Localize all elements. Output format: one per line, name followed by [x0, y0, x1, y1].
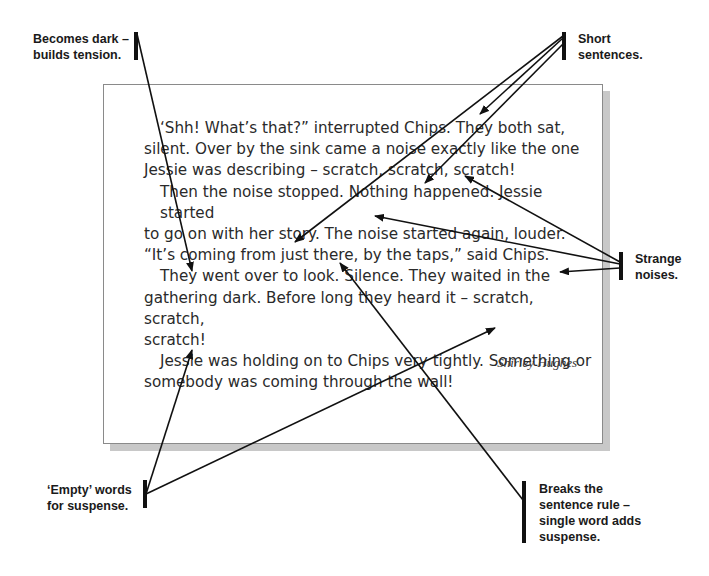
annotation-line: for suspense. — [47, 498, 132, 514]
annotation-becomes-dark: Becomes dark – builds tension. — [33, 31, 129, 63]
annotation-bar-strange-noises — [619, 252, 623, 280]
annotation-empty-words: ‘Empty’ words for suspense. — [47, 482, 132, 514]
annotation-line: suspense. — [539, 529, 641, 545]
passage-text: ‘Shh! What’s that?” interrupted Chips. T… — [144, 118, 599, 394]
annotation-line: Becomes dark – — [33, 31, 129, 47]
annotation-bar-breaks-rule — [522, 481, 526, 543]
passage-line: silent. Over by the sink came a noise ex… — [144, 139, 599, 160]
passage-line: ‘Shh! What’s that?” interrupted Chips. T… — [144, 118, 599, 139]
passage-line: gathering dark. Before long they heard i… — [144, 288, 599, 330]
annotation-strange-noises: Strange noises. — [635, 251, 682, 283]
annotation-line: ‘Empty’ words — [47, 482, 132, 498]
passage-line: They went over to look. Silence. They wa… — [144, 266, 599, 287]
annotation-bar-becomes-dark — [134, 32, 138, 60]
passage-box: ‘Shh! What’s that?” interrupted Chips. T… — [103, 84, 603, 444]
annotation-line: noises. — [635, 267, 682, 283]
annotation-line: Strange — [635, 251, 682, 267]
annotation-line: builds tension. — [33, 47, 129, 63]
passage-line: Jessie was describing – scratch, scratch… — [144, 160, 599, 181]
annotation-bar-empty-words — [143, 480, 147, 508]
passage-line: Then the noise stopped. Nothing happened… — [144, 182, 599, 224]
passage-line: to go on with her story. The noise start… — [144, 224, 599, 245]
annotation-line: Breaks the — [539, 481, 641, 497]
passage-line: somebody was coming through the wall! — [144, 372, 599, 393]
passage-line: scratch! — [144, 330, 599, 351]
annotation-line: single word adds — [539, 513, 641, 529]
annotation-short-sentences: Short sentences. — [578, 31, 643, 63]
annotation-line: sentences. — [578, 47, 643, 63]
passage-line: “It’s coming from just there, by the tap… — [144, 245, 599, 266]
annotation-bar-short-sentences — [562, 32, 566, 60]
annotation-breaks-rule: Breaks the sentence rule – single word a… — [539, 481, 641, 545]
annotation-line: sentence rule – — [539, 497, 641, 513]
annotation-line: Short — [578, 31, 643, 47]
author-credit: Shirley Hughes — [497, 355, 577, 371]
